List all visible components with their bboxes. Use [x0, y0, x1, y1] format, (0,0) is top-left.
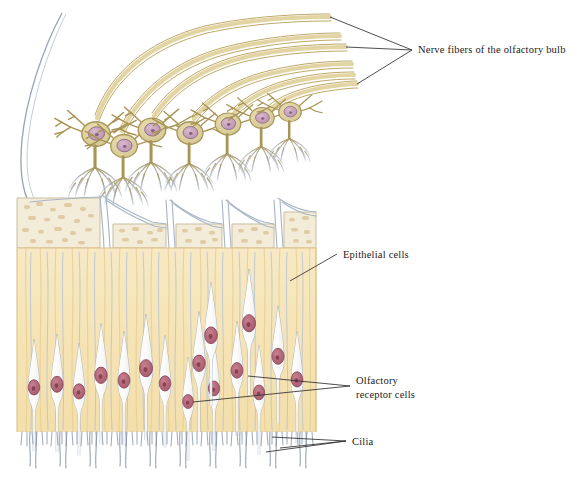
label-olfactory-receptor-cells-line2: receptor cells: [356, 389, 415, 400]
bone-block: [113, 224, 166, 248]
bone-block: [176, 224, 222, 248]
label-cilia: Cilia: [352, 436, 374, 447]
label-nerve-fibers: Nerve fibers of the olfactory bulb: [418, 44, 566, 55]
label-olfactory-receptor-cells-line1: Olfactory: [356, 375, 399, 386]
bone-block: [284, 212, 316, 248]
label-epithelial-cells: Epithelial cells: [343, 249, 409, 260]
olfactory-epithelium-diagram: Nerve fibers of the olfactory bulb Epith…: [0, 0, 586, 478]
bone-block: [232, 224, 274, 248]
bone-block: [17, 198, 100, 248]
